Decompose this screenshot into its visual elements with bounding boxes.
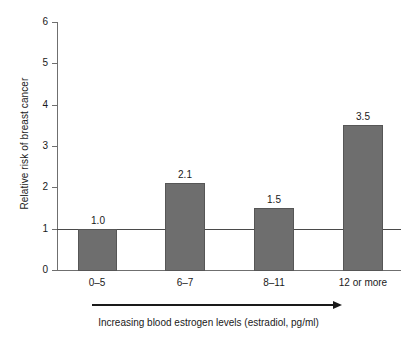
category-label-6-7: 6–7 bbox=[140, 278, 230, 288]
bar-value-6-7: 2.1 bbox=[155, 170, 215, 180]
y-tick-3 bbox=[52, 146, 58, 147]
bar-value-12-or-more: 3.5 bbox=[333, 112, 393, 122]
y-tick-label-6: 6 bbox=[30, 17, 48, 27]
x-axis-caption: Increasing blood estrogen levels (estrad… bbox=[0, 317, 417, 328]
category-label-12-or-more: 12 or more bbox=[318, 278, 408, 288]
y-tick-label-5: 5 bbox=[30, 58, 48, 68]
y-tick-label-0: 0 bbox=[30, 265, 48, 275]
y-tick-2 bbox=[52, 187, 58, 188]
x-direction-arrow-icon bbox=[92, 301, 342, 310]
category-label-0-5: 0–5 bbox=[52, 278, 142, 288]
bar-value-0-5: 1.0 bbox=[68, 216, 128, 226]
bar-chart-figure: Relative risk of breast cancer 0 1 2 3 4… bbox=[0, 0, 417, 337]
y-tick-label-1: 1 bbox=[30, 224, 48, 234]
arrow-head bbox=[333, 301, 342, 309]
bar-0-5 bbox=[78, 229, 117, 271]
y-tick-label-4: 4 bbox=[30, 100, 48, 110]
y-tick-6 bbox=[52, 22, 58, 23]
arrow-shaft bbox=[92, 304, 334, 306]
y-tick-4 bbox=[52, 105, 58, 106]
y-tick-label-3: 3 bbox=[30, 141, 48, 151]
bar-6-7 bbox=[165, 183, 205, 271]
bar-8-11 bbox=[254, 208, 294, 271]
y-tick-5 bbox=[52, 63, 58, 64]
bar-value-8-11: 1.5 bbox=[244, 195, 304, 205]
y-tick-label-2: 2 bbox=[30, 182, 48, 192]
y-axis-title: Relative risk of breast cancer bbox=[19, 39, 30, 249]
bar-12-or-more bbox=[343, 125, 383, 271]
category-label-8-11: 8–11 bbox=[229, 278, 319, 288]
